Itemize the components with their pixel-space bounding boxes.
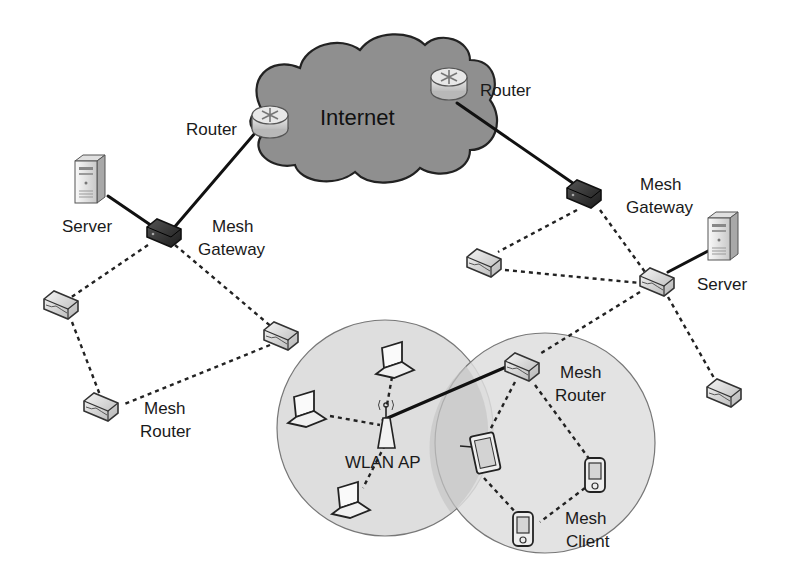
mesh-client-label-2: Client <box>566 532 610 551</box>
wireless-link <box>72 322 100 395</box>
link-router-left-gateway <box>172 132 256 230</box>
mesh-gateway-left-label-1: Mesh <box>212 217 254 236</box>
server-left-icon <box>75 155 105 203</box>
stylus-icon <box>460 446 472 447</box>
mesh-router-center-label-1: Mesh <box>560 363 602 382</box>
router-right-label: Router <box>480 81 531 100</box>
link-server-right-meshrouter <box>668 250 710 272</box>
mesh-router-center-label-2: Router <box>555 386 606 405</box>
mesh-router-icon <box>467 249 501 277</box>
pda-mesh-client-icon <box>585 458 605 492</box>
server-right-label: Server <box>697 275 747 294</box>
wireless-link <box>70 245 148 298</box>
mesh-gateway-right-icon <box>567 180 601 208</box>
router-left-label: Router <box>186 120 237 139</box>
server-left-label: Server <box>62 217 112 236</box>
wireless-link <box>600 210 645 272</box>
internet-label: Internet <box>320 105 395 130</box>
mesh-client-label-1: Mesh <box>565 509 607 528</box>
mesh-router-left-label-2: Router <box>140 422 191 441</box>
wireless-link <box>122 345 270 405</box>
mesh-router-icon <box>707 379 741 407</box>
pda-mesh-client-icon <box>513 512 533 546</box>
mesh-router-left-label-1: Mesh <box>144 399 186 418</box>
router-right-icon <box>431 68 467 100</box>
mesh-gateway-right-label-2: Gateway <box>626 198 694 217</box>
wireless-link <box>505 270 640 283</box>
server-right-icon <box>708 212 738 260</box>
link-server-left-gateway <box>108 196 155 228</box>
mesh-router-icon <box>84 393 118 421</box>
mesh-gateway-left-label-2: Gateway <box>198 240 266 259</box>
router-left-icon <box>252 106 288 138</box>
wireless-link <box>498 210 577 252</box>
wlan-ap-label: WLAN AP <box>345 453 421 472</box>
wireless-link <box>668 297 718 385</box>
mesh-gateway-right-label-1: Mesh <box>640 175 682 194</box>
mesh-network-diagram: Internet Router Router Server Server Mes… <box>0 0 789 582</box>
